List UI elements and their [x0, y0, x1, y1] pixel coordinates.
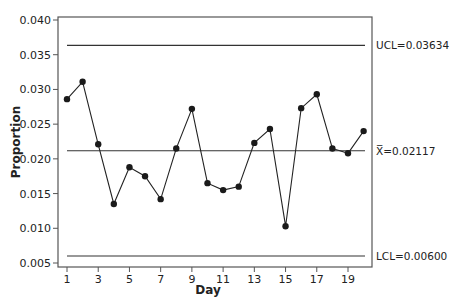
- data-point: [111, 201, 117, 207]
- data-point: [79, 79, 85, 85]
- y-tick-label: 0.025: [20, 118, 52, 131]
- data-point: [142, 173, 148, 179]
- data-point: [220, 187, 226, 193]
- data-point: [345, 150, 351, 156]
- x-tick-label: 19: [341, 273, 355, 286]
- y-tick-label: 0.015: [20, 188, 52, 201]
- lcl-label: LCL=0.00600: [376, 250, 447, 262]
- x-tick-label: 17: [310, 273, 324, 286]
- data-point: [64, 96, 70, 102]
- p-chart: 0.0050.0100.0150.0200.0250.0300.0350.040…: [0, 0, 450, 305]
- x-tick-label: 1: [64, 273, 71, 286]
- data-point: [126, 164, 132, 170]
- data-point: [157, 196, 163, 202]
- data-point: [189, 106, 195, 112]
- x-tick-label: 15: [279, 273, 293, 286]
- data-point: [360, 128, 366, 134]
- x-axis-title: Day: [195, 283, 221, 297]
- y-tick-label: 0.010: [20, 222, 52, 235]
- x-tick-label: 7: [157, 273, 164, 286]
- data-point: [236, 183, 242, 189]
- data-point: [298, 105, 304, 111]
- x-tick-label: 3: [95, 273, 102, 286]
- y-axis-title: Proportion: [9, 106, 23, 178]
- y-tick-label: 0.040: [20, 14, 52, 27]
- data-point: [173, 145, 179, 151]
- data-point: [251, 140, 257, 146]
- y-axis: 0.0050.0100.0150.0200.0250.0300.0350.040: [20, 14, 59, 270]
- data-point: [282, 223, 288, 229]
- data-point: [314, 91, 320, 97]
- chart-canvas: 0.0050.0100.0150.0200.0250.0300.0350.040…: [0, 0, 450, 305]
- x-tick-label: 5: [126, 273, 133, 286]
- y-tick-label: 0.020: [20, 153, 52, 166]
- data-point: [95, 141, 101, 147]
- data-point: [329, 145, 335, 151]
- data-point: [267, 126, 273, 132]
- data-point: [204, 180, 210, 186]
- plot-frame: [58, 17, 372, 267]
- ucl-label: UCL=0.03634: [376, 39, 449, 51]
- y-tick-label: 0.005: [20, 257, 52, 270]
- y-tick-label: 0.035: [20, 49, 52, 62]
- x-tick-label: 13: [247, 273, 261, 286]
- center-label: X̅=0.02117: [376, 145, 435, 157]
- control-limits: UCL=0.03634X̅=0.02117LCL=0.00600: [67, 39, 449, 262]
- data-points: [64, 79, 367, 230]
- y-tick-label: 0.030: [20, 83, 52, 96]
